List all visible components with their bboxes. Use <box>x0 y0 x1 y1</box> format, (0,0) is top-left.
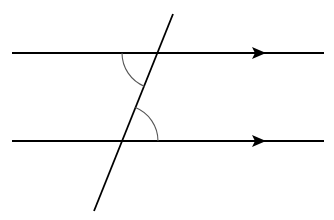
upper-angle-arc <box>122 53 145 86</box>
diagram-canvas <box>0 0 334 220</box>
parallel-lines-diagram <box>0 0 334 220</box>
lower-angle-arc <box>135 108 158 141</box>
transversal-line <box>94 14 173 211</box>
